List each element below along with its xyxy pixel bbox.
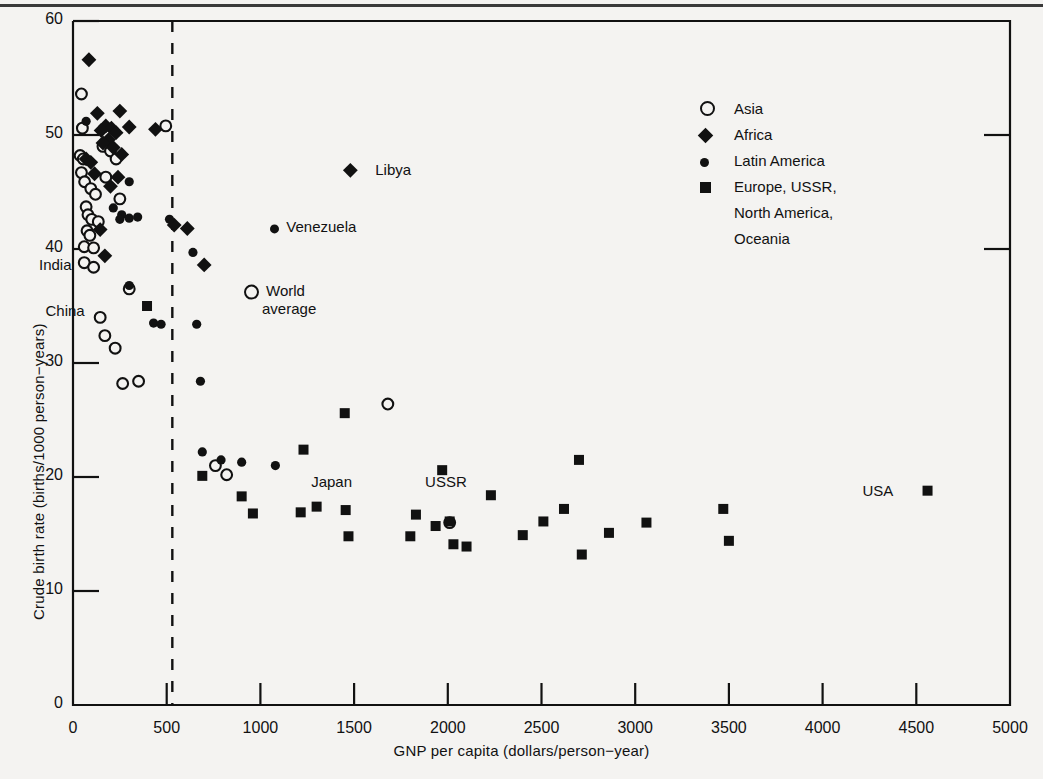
x-tick-label-500: 500: [122, 719, 212, 737]
plot-area: [0, 0, 1043, 779]
data-point: [577, 550, 587, 560]
y-tick-label-0: 0: [11, 694, 63, 712]
data-point: [165, 215, 174, 224]
data-point: [180, 221, 195, 236]
legend-label: Oceania: [734, 230, 790, 247]
data-point: [574, 455, 584, 465]
x-tick-label-2500: 2500: [497, 719, 587, 737]
data-point: [114, 193, 125, 204]
data-point: [299, 445, 309, 455]
series-europe-ussr-northamerica-oceania: [142, 301, 933, 560]
data-point: [90, 106, 105, 121]
data-point: [125, 177, 134, 186]
legend-marker-filled-diamond: [700, 127, 726, 145]
legend-label: Latin America: [734, 152, 825, 169]
data-point: [271, 461, 280, 470]
data-point: [112, 104, 127, 119]
y-tick-label-30: 30: [11, 352, 63, 370]
annotation-japan: Japan: [311, 473, 352, 490]
legend-label: Europe, USSR,: [734, 178, 837, 195]
data-point: [88, 262, 99, 273]
annotation-ussr: USSR: [425, 473, 467, 490]
data-point: [923, 486, 933, 496]
legend-marker-open-circle: [700, 101, 726, 120]
x-tick-label-4500: 4500: [871, 719, 961, 737]
annotation-china: China: [45, 302, 84, 319]
data-point: [411, 510, 421, 520]
data-point: [198, 447, 207, 456]
data-point: [343, 531, 353, 541]
legend-item-asia[interactable]: Asia: [700, 100, 763, 120]
x-tick-label-3500: 3500: [684, 719, 774, 737]
data-point: [340, 408, 350, 418]
data-point: [237, 491, 247, 501]
data-point: [405, 531, 415, 541]
data-point: [197, 471, 207, 481]
data-point: [109, 203, 118, 212]
data-point: [142, 301, 152, 311]
data-point: [122, 120, 137, 135]
x-axis-title: GNP per capita (dollars/person−year): [0, 742, 1043, 759]
data-point: [115, 215, 124, 224]
data-point: [724, 536, 734, 546]
annotation-marker-filled-circle: [270, 224, 279, 233]
x-tick-label-1000: 1000: [215, 719, 305, 737]
annotation-libya: Libya: [375, 162, 411, 179]
x-tick-label-2000: 2000: [403, 719, 493, 737]
data-point: [133, 376, 144, 387]
data-point: [448, 539, 458, 549]
data-point: [133, 212, 142, 221]
data-point: [156, 320, 165, 329]
annotation-text: World: [266, 282, 305, 299]
annotation-text: average: [262, 299, 316, 316]
data-point: [462, 542, 472, 552]
data-point: [90, 189, 101, 200]
legend-marker-filled-square: [700, 179, 726, 197]
data-point: [221, 469, 232, 480]
data-point: [343, 163, 358, 178]
data-point: [248, 508, 258, 518]
data-point: [718, 504, 728, 514]
data-point: [84, 230, 95, 241]
annotation-usa: USA: [862, 482, 893, 499]
legend-marker-filled-circle: [700, 153, 726, 171]
axis-frame: [73, 21, 1010, 705]
legend-item-africa[interactable]: Africa: [700, 126, 772, 145]
annotation-text: Venezuela: [286, 219, 356, 236]
annotation-marker-open-circle: [244, 284, 259, 299]
data-point: [82, 117, 91, 126]
y-tick-label-20: 20: [11, 466, 63, 484]
figure-scatter-birthrate-vs-gnp: Crude birth rate (births/1000 person−yea…: [0, 0, 1043, 779]
data-point: [125, 214, 134, 223]
legend-item-north-america[interactable]: North America,: [700, 204, 833, 222]
data-point: [538, 516, 548, 526]
data-point: [99, 330, 110, 341]
annotation-text: USA: [862, 482, 893, 499]
data-point: [192, 320, 201, 329]
legend-item-europe-ussr[interactable]: Europe, USSR,: [700, 178, 837, 197]
data-point: [518, 530, 528, 540]
data-point: [445, 516, 455, 526]
data-point: [216, 455, 225, 464]
legend-item-oceania[interactable]: Oceania: [700, 230, 790, 248]
legend-label: North America,: [734, 204, 833, 221]
data-point: [382, 399, 393, 410]
annotation-text: China: [45, 302, 84, 319]
data-point: [559, 504, 569, 514]
data-point: [82, 52, 97, 67]
data-point: [88, 242, 99, 253]
data-point: [117, 378, 128, 389]
y-tick-label-10: 10: [11, 580, 63, 598]
annotation-text: Japan: [311, 473, 352, 490]
annotation-text: USSR: [425, 473, 467, 490]
x-tick-label-3000: 3000: [590, 719, 680, 737]
data-point: [97, 248, 112, 263]
data-point: [341, 505, 351, 515]
y-tick-label-50: 50: [11, 124, 63, 142]
data-point: [312, 502, 322, 512]
legend-item-latin-america[interactable]: Latin America: [700, 152, 825, 171]
data-point: [188, 248, 197, 257]
legend-label: Africa: [734, 126, 772, 143]
x-tick-label-1500: 1500: [309, 719, 399, 737]
annotation-world: Worldaverage: [244, 282, 316, 317]
